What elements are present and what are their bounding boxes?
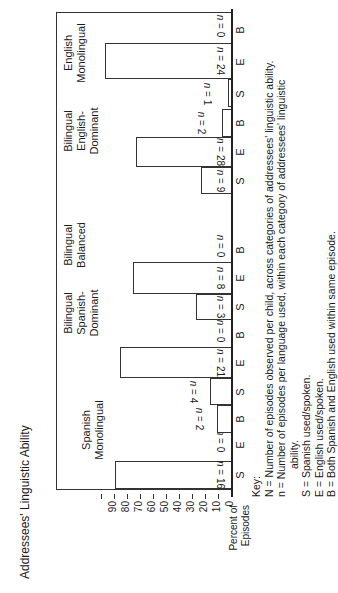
y-tick-70: 70 — [133, 501, 144, 515]
group-label-line: Bilingual — [62, 91, 75, 171]
y-tick-10: 10 — [211, 501, 222, 515]
cat-E: E — [234, 142, 246, 162]
y-tick-40: 40 — [172, 501, 183, 515]
group-label-balanced: Bilingual Balanced — [62, 205, 88, 285]
chart-title: Addressees' Linguistic Ability — [18, 425, 32, 579]
y-tick-0: 0 — [224, 501, 235, 515]
key-n: n = Number of episodes per language used… — [275, 61, 288, 497]
n-label: n = 28 — [215, 132, 226, 172]
rotated-chart: Addressees' Linguistic Ability Percent o… — [0, 0, 338, 593]
group-label-spanish-monolingual: Spanish Monolingual — [80, 385, 106, 475]
y-axis-label-line1: Percent of — [228, 505, 239, 575]
bar-english-mono-S — [228, 79, 231, 107]
cat-S: S — [234, 171, 246, 191]
group-label-line: Dominant — [88, 273, 101, 353]
key-B: B = Both Spanish and English used within… — [325, 61, 338, 497]
n-label: n = 16 — [215, 455, 226, 495]
group-label-line: English — [62, 13, 75, 93]
cat-B: B — [234, 325, 246, 345]
y-axis-label-line2: Episodes — [240, 505, 251, 575]
n-label: n = 4 — [188, 372, 199, 412]
bar-english-mono-E — [105, 43, 231, 79]
group-label-line: Monolingual — [75, 13, 88, 93]
y-tick-mark — [114, 494, 115, 499]
n-label: n = 24 — [215, 41, 226, 81]
y-tick-80: 80 — [120, 501, 131, 515]
n-label: n = 0 — [215, 6, 226, 46]
key-title: Key: — [250, 61, 263, 497]
group-label-line: Spanish — [80, 385, 93, 475]
group-label-spanish-dominant: Bilingual Spanish- Dominant — [62, 273, 101, 353]
y-tick-50: 50 — [159, 501, 170, 515]
legend-key: Key: N = Number of episodes observed per… — [250, 61, 338, 497]
y-tick-mark — [153, 494, 154, 499]
n-label: n = 0 — [215, 226, 226, 266]
group-label-line: Bilingual — [62, 273, 75, 353]
group-label-line: English- — [75, 91, 88, 171]
cat-S: S — [234, 297, 246, 317]
cat-S: S — [234, 382, 246, 402]
cat-B: B — [234, 20, 246, 40]
y-tick-mark — [179, 494, 180, 499]
group-label-english-dominant: Bilingual English- Dominant — [62, 91, 101, 171]
y-tick-mark — [127, 494, 128, 499]
cat-E: E — [234, 435, 246, 455]
group-label-english-monolingual: English Monolingual — [62, 13, 88, 93]
y-tick-mark — [140, 494, 141, 499]
key-S: S = Spanish used/spoken. — [300, 61, 313, 497]
y-tick-mark — [101, 494, 102, 499]
y-tick-mark — [192, 494, 193, 499]
cat-B: B — [234, 240, 246, 260]
group-label-line: Spanish- — [75, 273, 88, 353]
bar-english-dom-B — [222, 109, 231, 137]
cat-S: S — [234, 84, 246, 104]
y-tick-30: 30 — [185, 501, 196, 515]
y-tick-60: 60 — [146, 501, 157, 515]
cat-E: E — [234, 353, 246, 373]
group-label-line: Balanced — [75, 205, 88, 285]
cat-B: B — [234, 113, 246, 133]
cat-E: E — [234, 52, 246, 72]
group-label-line: Dominant — [88, 91, 101, 171]
n-label: n = 1 — [202, 74, 213, 114]
cat-B: B — [234, 409, 246, 429]
x-axis-baseline — [231, 9, 233, 497]
y-tick-mark — [205, 494, 206, 499]
bar-spanish-mono-S — [115, 461, 231, 489]
group-label-line: Bilingual — [62, 205, 75, 285]
bar-spanish-mono-B — [217, 405, 231, 433]
key-E: E = English used/spoken. — [313, 61, 326, 497]
cat-S: S — [234, 465, 246, 485]
key-N: N = Number of episodes observed per chil… — [263, 61, 276, 497]
y-tick-mark — [166, 494, 167, 499]
cat-E: E — [234, 268, 246, 288]
y-tick-90: 90 — [107, 501, 118, 515]
key-n-cont: ability. — [288, 61, 301, 497]
y-tick-20: 20 — [198, 501, 209, 515]
group-label-line: Monolingual — [93, 385, 106, 475]
